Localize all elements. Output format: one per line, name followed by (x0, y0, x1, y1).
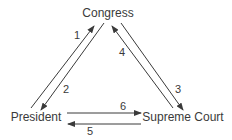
edge-number-label: 2 (63, 83, 69, 95)
node-supreme-court: Supreme Court (142, 110, 224, 124)
edge-number-label: 5 (87, 125, 93, 137)
edge-5-supreme_court-to-president: 5 (68, 124, 141, 137)
edge-1-president-to-congress: 1 (31, 26, 94, 108)
arrow-icon (41, 23, 104, 110)
edge-number-label: 6 (120, 100, 126, 112)
edge-number-label: 4 (119, 46, 125, 58)
edge-number-label: 3 (175, 83, 181, 95)
diagram-canvas: 123456 CongressPresidentSupreme Court (0, 0, 232, 140)
arrow-icon (31, 26, 94, 108)
node-president: President (11, 110, 62, 124)
edge-6-president-to-supreme_court: 6 (67, 100, 141, 113)
edge-4-supreme_court-to-congress: 4 (112, 26, 173, 108)
edge-3-congress-to-supreme_court: 3 (121, 23, 183, 110)
node-congress: Congress (82, 6, 133, 20)
edge-2-congress-to-president: 2 (41, 23, 104, 110)
nodes-layer: CongressPresidentSupreme Court (11, 6, 225, 124)
arrow-icon (112, 26, 173, 108)
arrow-icon (121, 23, 183, 110)
branches-of-government-diagram: 123456 CongressPresidentSupreme Court (0, 0, 232, 140)
edge-number-label: 1 (74, 29, 80, 41)
